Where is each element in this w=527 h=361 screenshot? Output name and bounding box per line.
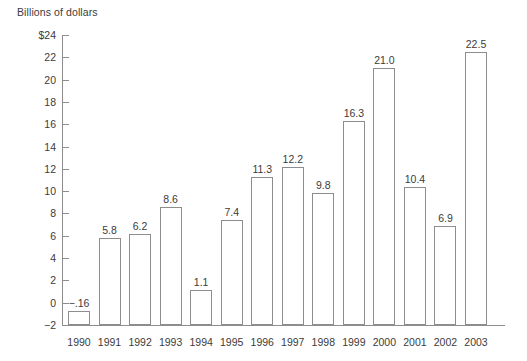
y-axis-tick — [63, 169, 69, 170]
bar-value-label: 12.2 — [283, 154, 303, 165]
bar[interactable] — [434, 226, 456, 325]
bar[interactable] — [343, 121, 365, 325]
plot-area: −.1619905.819916.219928.619931.119947.41… — [0, 0, 527, 361]
y-axis-tick — [63, 213, 69, 214]
bar[interactable] — [190, 290, 212, 325]
bar[interactable] — [373, 68, 395, 325]
bar[interactable] — [99, 238, 121, 325]
bar-value-label: 10.4 — [405, 174, 425, 185]
bar[interactable] — [465, 52, 487, 325]
bar[interactable] — [129, 234, 151, 325]
y-axis-tick — [63, 236, 69, 237]
x-axis-tick-label: 1997 — [281, 337, 304, 348]
y-axis-tick — [63, 35, 69, 36]
bar-value-label: 8.6 — [163, 194, 178, 205]
x-axis-tick-label: 1994 — [189, 337, 212, 348]
x-axis-tick-label: 2001 — [403, 337, 426, 348]
x-axis-tick-label: 1993 — [159, 337, 182, 348]
bar-value-label: 16.3 — [344, 108, 364, 119]
bar-value-label: 6.2 — [133, 221, 148, 232]
bar-value-label: 1.1 — [194, 277, 209, 288]
bar-value-label: 9.8 — [316, 180, 331, 191]
bar[interactable] — [312, 193, 334, 325]
bar[interactable] — [404, 187, 426, 325]
x-axis-tick-label: 2002 — [434, 337, 457, 348]
bar-value-label: 11.3 — [252, 164, 272, 175]
y-axis-tick — [63, 57, 69, 58]
bar-chart: Billions of dollars $2422201816141210864… — [0, 0, 527, 361]
bar-value-label: 21.0 — [374, 55, 394, 66]
x-axis-tick-label: 1996 — [251, 337, 274, 348]
y-axis-line — [62, 35, 63, 325]
bar[interactable] — [251, 177, 273, 325]
x-axis-tick-label: 1992 — [128, 337, 151, 348]
bar-value-label: 7.4 — [224, 207, 239, 218]
bar-value-label: −.16 — [69, 298, 90, 309]
y-axis-tick — [63, 80, 69, 81]
bar-value-label: 5.8 — [102, 225, 117, 236]
y-axis-tick — [63, 102, 69, 103]
x-axis-tick-label: 1991 — [98, 337, 121, 348]
x-axis-tick-label: 1998 — [312, 337, 335, 348]
bar[interactable] — [68, 311, 90, 325]
bar[interactable] — [221, 220, 243, 325]
x-axis-tick-label: 1990 — [67, 337, 90, 348]
y-axis-tick — [63, 280, 69, 281]
y-axis-tick — [63, 147, 69, 148]
bar-value-label: 22.5 — [466, 39, 486, 50]
y-axis-tick — [63, 325, 69, 326]
y-axis-tick — [63, 191, 69, 192]
x-axis-tick-label: 2000 — [373, 337, 396, 348]
y-axis-tick — [63, 258, 69, 259]
bar[interactable] — [282, 167, 304, 325]
y-axis-tick — [63, 124, 69, 125]
x-axis-line — [62, 325, 505, 326]
x-axis-tick-label: 1999 — [342, 337, 365, 348]
x-axis-tick-label: 1995 — [220, 337, 243, 348]
x-axis-tick-label: 2003 — [464, 337, 487, 348]
bar-value-label: 6.9 — [438, 213, 453, 224]
bar[interactable] — [160, 207, 182, 325]
